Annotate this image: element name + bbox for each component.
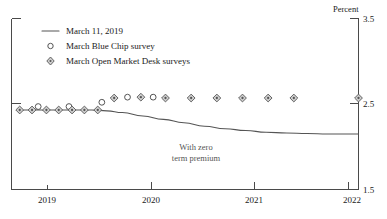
data-point-desk-survey-center — [164, 97, 166, 99]
data-point-desk-survey-center — [140, 96, 142, 98]
chart-svg: Percent 3.5 2.5 1.5 2019 2020 2021 2022 … — [0, 0, 387, 219]
data-point-desk-survey-center — [71, 109, 73, 111]
data-point-desk-survey-center — [293, 97, 295, 99]
legend-marker-diamond — [47, 57, 54, 65]
data-point-desk-survey-center — [241, 97, 243, 99]
data-point-desk-survey-center — [97, 109, 99, 111]
legend: March 11, 2019 March Blue Chip survey Ma… — [42, 26, 190, 66]
data-point-desk-survey-center — [190, 97, 192, 99]
annotation-line2: term premium — [172, 153, 221, 163]
data-point-desk-survey-center — [58, 109, 60, 111]
data-point-desk-survey-center — [216, 97, 218, 99]
series-layer — [16, 93, 363, 134]
data-point-blue-chip — [99, 99, 105, 105]
legend-label-0: March 11, 2019 — [66, 26, 123, 36]
data-point-desk-survey-center — [357, 97, 359, 99]
y-axis-unit-label: Percent — [333, 4, 359, 14]
x-tick-label-2020: 2020 — [142, 195, 161, 205]
x-tick-label-2019: 2019 — [38, 195, 57, 205]
y-tick-label-bottom: 1.5 — [363, 185, 375, 195]
y-tick-label-top: 3.5 — [363, 14, 375, 24]
legend-label-1: March Blue Chip survey — [66, 41, 155, 51]
legend-marker-open-circle — [48, 43, 53, 48]
data-point-blue-chip — [150, 94, 156, 100]
data-point-blue-chip — [125, 94, 131, 100]
data-point-desk-survey-center — [31, 109, 33, 111]
y-tick-label-mid: 2.5 — [363, 99, 375, 109]
legend-label-2: March Open Market Desk surveys — [66, 56, 190, 66]
series-line-march-11-2019 — [20, 110, 359, 134]
data-point-desk-survey-center — [19, 109, 21, 111]
x-tick-label-2021: 2021 — [245, 195, 263, 205]
annotation-line1: With zero — [179, 142, 212, 152]
data-point-desk-survey-center — [113, 97, 115, 99]
data-point-desk-survey-center — [83, 109, 85, 111]
plot-frame — [12, 19, 359, 190]
x-tick-label-2022: 2022 — [343, 195, 361, 205]
chart-container: Percent 3.5 2.5 1.5 2019 2020 2021 2022 … — [0, 0, 387, 219]
series-0 — [20, 110, 359, 134]
data-point-desk-survey-center — [45, 109, 47, 111]
data-point-desk-survey-center — [267, 97, 269, 99]
data-point-blue-chip — [35, 104, 41, 110]
